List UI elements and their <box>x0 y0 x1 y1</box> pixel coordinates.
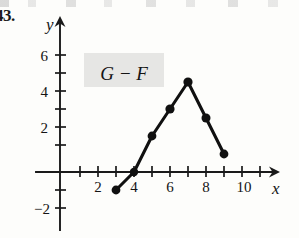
figure-page: 43. 2 4 6 <box>0 0 299 238</box>
x-tick-label-10: 10 <box>237 179 252 195</box>
y-tick-label-6: 6 <box>41 48 49 64</box>
x-tick-label-4: 4 <box>130 179 138 195</box>
x-axis-label: x <box>271 179 280 198</box>
data-point <box>220 150 229 159</box>
x-tick-label-2: 2 <box>94 179 102 195</box>
graph-figure: 2 4 6 8 10 6 4 2 −2 y x G − F <box>0 0 299 238</box>
y-tick-label-4: 4 <box>41 84 49 100</box>
x-tick-label-8: 8 <box>202 179 210 195</box>
y-axis-label: y <box>44 15 54 34</box>
data-point <box>130 168 138 176</box>
data-point <box>183 77 192 86</box>
y-tick-label-2: 2 <box>41 120 49 136</box>
curve-label: G − F <box>100 63 148 84</box>
data-point <box>202 114 211 123</box>
data-point <box>165 104 174 113</box>
y-tick-label-neg2: −2 <box>34 201 50 217</box>
data-point <box>148 132 157 141</box>
data-point <box>112 186 121 195</box>
x-tick-label-6: 6 <box>166 179 174 195</box>
